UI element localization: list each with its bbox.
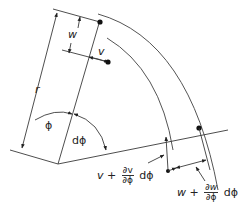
v-label: v [98, 46, 105, 57]
w-expression: w + ∂w ∂ϕ dϕ [177, 183, 238, 202]
v-expr-tail: dϕ [139, 169, 153, 182]
w-expr-fraction: ∂w ∂ϕ [204, 183, 218, 202]
v-expression: v + ∂v ∂ϕ dϕ [97, 166, 153, 185]
w-expr-leader [196, 167, 205, 181]
w-disp-line [176, 160, 206, 168]
r-label: r [35, 84, 40, 95]
w-expr-tail: dϕ [224, 186, 238, 199]
v-expr-leader [148, 155, 164, 163]
top-tangent-line [53, 9, 100, 22]
inner-point [105, 59, 110, 64]
phi-arc [35, 112, 72, 120]
phi-label: ϕ [45, 120, 52, 131]
w-arrow-bottom [69, 43, 71, 53]
v-expr-den: ∂ϕ [122, 176, 133, 185]
inner-arc [107, 38, 173, 150]
dphi-label: dϕ [72, 135, 86, 146]
w-expr-den: ∂ϕ [206, 193, 217, 202]
outer-arc [98, 14, 218, 190]
v-expr-fraction: ∂v ∂ϕ [122, 166, 134, 185]
base-line [10, 150, 58, 164]
w-label: w [68, 29, 77, 40]
w-expr-base: w + [177, 186, 199, 199]
v-arrow-left [89, 57, 98, 59]
w-arrow-top [78, 17, 80, 28]
outer-point [97, 19, 102, 24]
v-expr-base: v + [97, 169, 116, 182]
